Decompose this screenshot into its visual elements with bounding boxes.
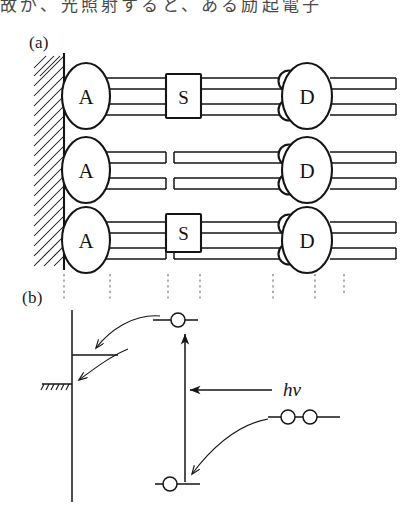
electron-transfer-arrow-lower[interactable] (192, 419, 268, 474)
panel-b-diagram: hν (0, 0, 406, 514)
fermi-level-hatching (41, 384, 69, 390)
electron-circle-excited (171, 313, 185, 327)
figure-root: 故が、光照射すると、ある励起電子 (a) (b) (0, 0, 406, 514)
electron-circle-occupied-a (281, 410, 295, 424)
electron-circle-ground (163, 477, 177, 491)
electron-transfer-arrow-upper[interactable] (96, 316, 160, 348)
electron-transfer-arrow-upper-2[interactable] (79, 349, 128, 380)
photon-label: hν (283, 379, 302, 400)
electron-circle-occupied-b (303, 410, 317, 424)
